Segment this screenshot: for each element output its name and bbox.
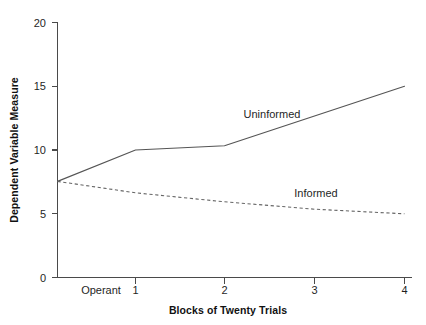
y-tick-label-0: 0 [40,272,46,284]
y-tick-label-5: 5 [40,208,46,220]
y-axis-title: Dependent Variable Measure [8,77,20,223]
y-tick-label-10: 10 [34,144,46,156]
series-uninformed-line [58,86,405,181]
chart-figure: 0 5 10 15 20 Operant 1 2 3 4 Uninformed … [0,0,426,325]
series-informed-line [58,181,405,213]
x-axis-title: Blocks of Twenty Trials [169,304,287,316]
x-tick-label-2: 2 [221,284,227,296]
x-tick-label-operant: Operant [81,284,121,296]
x-tick-label-1: 1 [132,284,138,296]
x-tick-label-4: 4 [401,284,407,296]
line-chart: 0 5 10 15 20 Operant 1 2 3 4 Uninformed … [0,0,426,325]
series-label-uninformed: Uninformed [244,108,301,120]
y-tick-label-20: 20 [34,17,46,29]
x-tick-label-3: 3 [311,284,317,296]
y-tick-label-15: 15 [34,80,46,92]
series-label-informed: Informed [294,187,337,199]
